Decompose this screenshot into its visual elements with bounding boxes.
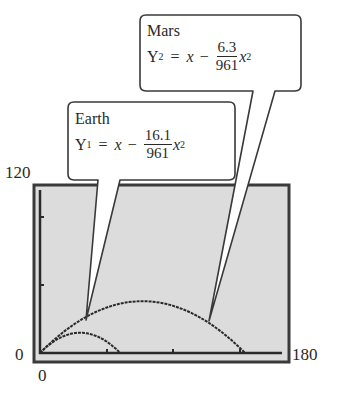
earth-label: Earth [75,110,185,128]
eq-x-squared: x [239,48,246,66]
earth-equation: Y1 = x − 16.1 961 x2 [75,128,185,161]
calculator-screen [34,185,289,362]
fraction-numerator: 6.3 [217,40,238,57]
y-max-label: 120 [5,164,31,181]
fraction-denominator: 961 [216,57,239,73]
eq-x: x [187,48,194,66]
eq-equals: = [171,48,180,66]
eq-power: 2 [180,136,185,154]
x-min-label: 0 [38,367,47,384]
eq-power: 2 [246,48,251,66]
mars-equation: Y2 = x − 6.3 961 x2 [147,40,251,73]
eq-minus: − [200,48,209,66]
eq-subscript: 2 [159,48,164,66]
x-max-label: 180 [292,346,318,363]
fraction-denominator: 961 [147,145,170,161]
eq-equals: = [99,136,108,154]
eq-var: Y [75,136,87,154]
fraction-numerator: 16.1 [144,128,172,145]
y-min-label: 0 [15,346,24,363]
eq-var: Y [147,48,159,66]
eq-x: x [115,136,122,154]
mars-fraction: 6.3 961 [216,40,239,73]
eq-subscript: 1 [87,136,92,154]
earth-callout: Earth Y1 = x − 16.1 961 x2 [75,110,185,161]
eq-minus: − [128,136,137,154]
mars-callout: Mars Y2 = x − 6.3 961 x2 [147,22,251,73]
eq-x-squared: x [173,136,180,154]
mars-label: Mars [147,22,251,40]
earth-fraction: 16.1 961 [144,128,172,161]
